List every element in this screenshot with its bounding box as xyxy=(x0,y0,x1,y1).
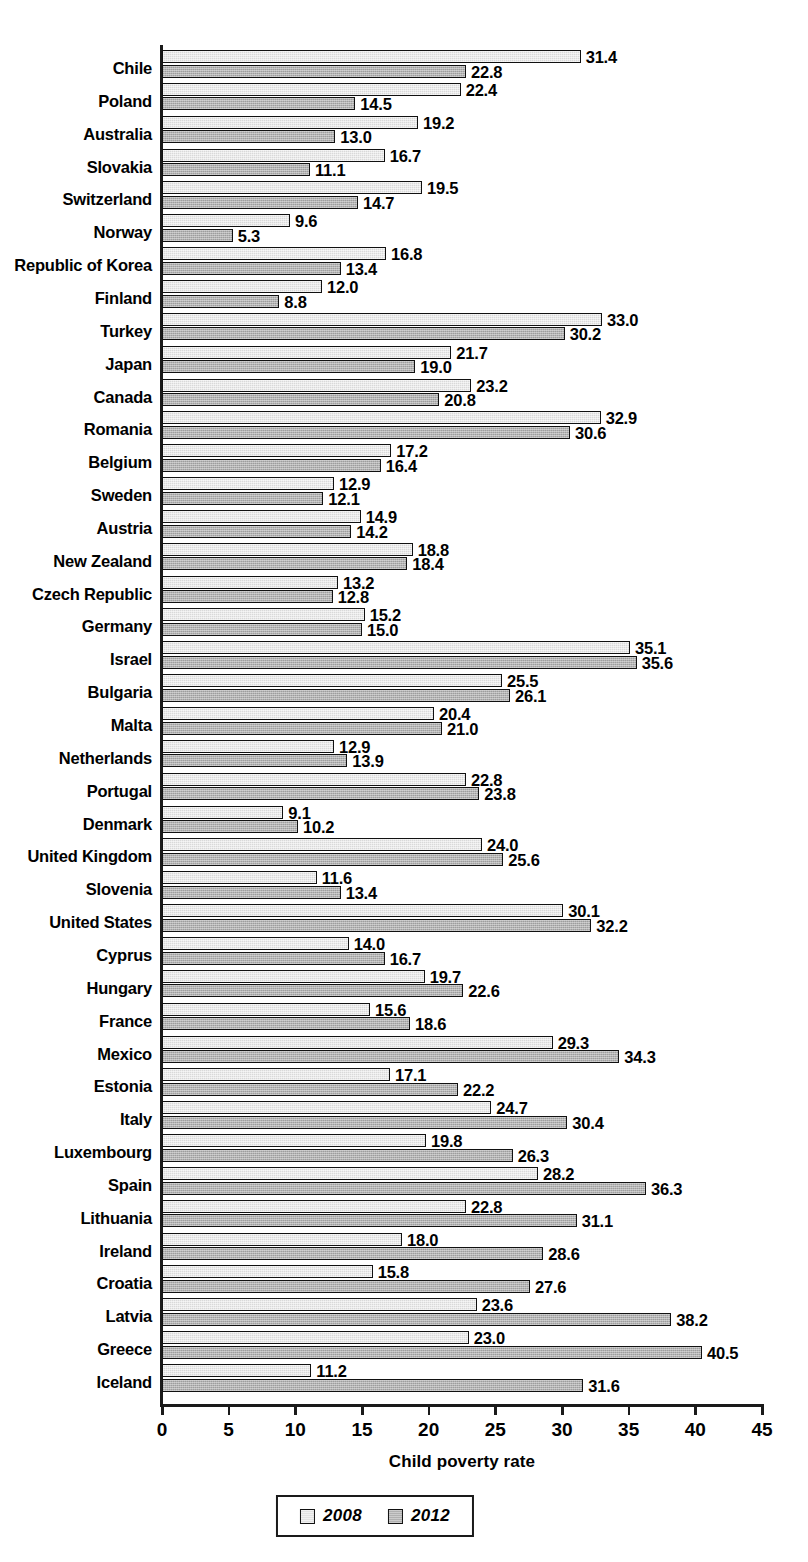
bar-value-label: 27.6 xyxy=(535,1281,566,1294)
bar-value-label: 23.0 xyxy=(474,1332,505,1345)
category-label: Cyprus xyxy=(0,946,152,965)
bar-value-label: 26.1 xyxy=(515,690,546,703)
bar-value-label: 13.4 xyxy=(346,263,377,276)
bar-2008 xyxy=(162,1298,477,1311)
bar-value-label: 16.8 xyxy=(391,248,422,261)
x-axis-tick xyxy=(494,1404,497,1415)
category-label: Switzerland xyxy=(0,190,152,209)
x-axis-tick-label: 45 xyxy=(751,1419,772,1441)
category-label: Germany xyxy=(0,617,152,636)
bar-value-label: 29.3 xyxy=(558,1037,589,1050)
legend-swatch-2008 xyxy=(300,1509,315,1524)
bar-2012 xyxy=(162,1149,513,1162)
bar-value-label: 13.4 xyxy=(346,887,377,900)
bar-value-label: 18.4 xyxy=(412,558,443,571)
bar-2012 xyxy=(162,1346,702,1359)
bar-value-label: 16.7 xyxy=(390,150,421,163)
bar-value-label: 35.6 xyxy=(642,657,673,670)
bar-2012 xyxy=(162,787,479,800)
bar-value-label: 21.7 xyxy=(456,347,487,360)
x-axis-tick xyxy=(428,1404,431,1415)
bar-value-label: 15.8 xyxy=(378,1266,409,1279)
bar-2008 xyxy=(162,1233,402,1246)
bar-value-label: 9.6 xyxy=(295,215,317,228)
bar-2008 xyxy=(162,1265,373,1278)
category-label: Iceland xyxy=(0,1373,152,1392)
category-label: Romania xyxy=(0,420,152,439)
bar-value-label: 20.8 xyxy=(444,394,475,407)
bar-2008 xyxy=(162,1068,390,1081)
bar-value-label: 18.6 xyxy=(415,1018,446,1031)
category-label: Malta xyxy=(0,716,152,735)
bar-value-label: 33.0 xyxy=(607,314,638,327)
bar-value-label: 13.9 xyxy=(352,755,383,768)
category-label: Croatia xyxy=(0,1274,152,1293)
category-label: Slovakia xyxy=(0,158,152,177)
bar-2012 xyxy=(162,492,323,505)
bar-value-label: 22.6 xyxy=(468,985,499,998)
category-label: Estonia xyxy=(0,1077,152,1096)
bar-2008 xyxy=(162,149,385,162)
x-axis-tick-label: 25 xyxy=(485,1419,506,1441)
bar-2012 xyxy=(162,1116,567,1129)
category-label: Bulgaria xyxy=(0,683,152,702)
bar-value-label: 23.8 xyxy=(484,788,515,801)
bar-value-label: 23.6 xyxy=(482,1299,513,1312)
category-label: Belgium xyxy=(0,453,152,472)
bar-2012 xyxy=(162,295,279,308)
bar-value-label: 14.9 xyxy=(366,511,397,524)
bar-value-label: 14.5 xyxy=(360,98,391,111)
bar-2008 xyxy=(162,1167,538,1180)
bar-2008 xyxy=(162,510,361,523)
bar-2008 xyxy=(162,576,338,589)
bar-value-label: 31.1 xyxy=(582,1215,613,1228)
category-label: Turkey xyxy=(0,322,152,341)
bar-value-label: 14.7 xyxy=(363,197,394,210)
category-label: New Zealand xyxy=(0,552,152,571)
category-label: Denmark xyxy=(0,815,152,834)
bar-2008 xyxy=(162,608,365,621)
bar-value-label: 12.1 xyxy=(328,493,359,506)
bar-value-label: 8.8 xyxy=(284,296,306,309)
legend-item-2012: 2012 xyxy=(388,1506,450,1526)
bar-value-label: 13.0 xyxy=(340,131,371,144)
bar-2008 xyxy=(162,477,334,490)
bar-value-label: 36.3 xyxy=(651,1183,682,1196)
bar-2012 xyxy=(162,984,463,997)
category-label: Austria xyxy=(0,519,152,538)
bar-2012 xyxy=(162,689,510,702)
category-label: Lithuania xyxy=(0,1209,152,1228)
bar-value-label: 30.1 xyxy=(568,905,599,918)
bar-2012 xyxy=(162,590,333,603)
value-axis-line xyxy=(160,1404,764,1407)
bar-2008 xyxy=(162,379,471,392)
category-label: Latvia xyxy=(0,1307,152,1326)
bar-value-label: 22.4 xyxy=(466,84,497,97)
category-label: Luxembourg xyxy=(0,1143,152,1162)
bar-2008 xyxy=(162,1200,466,1213)
bar-value-label: 19.7 xyxy=(430,971,461,984)
x-axis-tick xyxy=(294,1404,297,1415)
bar-2012 xyxy=(162,1214,577,1227)
bar-value-label: 18.0 xyxy=(407,1234,438,1247)
category-label: Finland xyxy=(0,289,152,308)
bar-2008 xyxy=(162,707,434,720)
bar-2008 xyxy=(162,1101,491,1114)
category-label: Ireland xyxy=(0,1242,152,1261)
bar-value-label: 12.0 xyxy=(327,281,358,294)
bar-2008 xyxy=(162,214,290,227)
x-axis-tick-label: 5 xyxy=(223,1419,234,1441)
bar-value-label: 40.5 xyxy=(707,1347,738,1360)
bar-2012 xyxy=(162,952,385,965)
bar-2012 xyxy=(162,163,310,176)
bar-value-label: 22.8 xyxy=(471,1201,502,1214)
bar-2008 xyxy=(162,1364,311,1377)
category-label: Chile xyxy=(0,59,152,78)
bar-2012 xyxy=(162,1182,646,1195)
bar-value-label: 32.9 xyxy=(606,412,637,425)
bar-value-label: 32.2 xyxy=(596,920,627,933)
bar-2008 xyxy=(162,1134,426,1147)
x-axis-tick-label: 10 xyxy=(285,1419,306,1441)
legend-item-2008: 2008 xyxy=(300,1506,362,1526)
category-label: Israel xyxy=(0,650,152,669)
